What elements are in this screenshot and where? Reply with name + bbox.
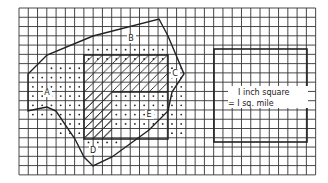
legend-line-1: I inch square [238,88,290,97]
region-label-e: E [146,110,151,119]
region-label-c: C [172,69,178,78]
area-estimation-diagram: ABCDE I inch square = I sq. mile [0,0,328,183]
legend-line-2: = I sq. mile [228,99,274,108]
hatched-whole-squares [84,55,168,92]
region-label-b: B [128,34,134,43]
region-label-a: A [44,88,50,97]
region-label-d: D [90,146,96,155]
